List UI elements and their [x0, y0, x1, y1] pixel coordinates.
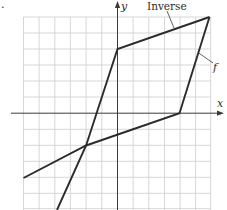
- x-axis-label: x: [217, 97, 224, 110]
- y-axis-arrow-icon: [115, 1, 120, 8]
- y-axis-label: y: [120, 0, 128, 13]
- function-inverse-graph: . y x Inverse f: [0, 0, 227, 210]
- x-axis-arrow-icon: [217, 111, 224, 116]
- inverse-label: Inverse: [147, 0, 187, 12]
- inverse-label-leader: [167, 11, 174, 28]
- f-label: f: [212, 61, 219, 74]
- problem-marker: .: [1, 0, 5, 11]
- f-curve: [24, 17, 210, 178]
